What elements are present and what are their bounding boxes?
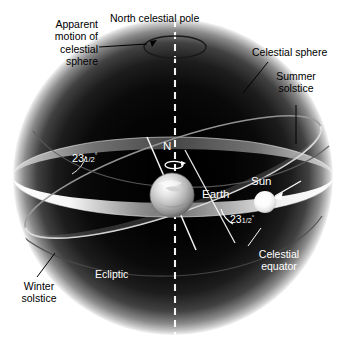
label-tilt-angle-right: 231/2° xyxy=(230,213,254,225)
label-sun: Sun xyxy=(251,175,271,187)
tilt-right-degree: ° xyxy=(252,213,254,220)
label-winter-solstice: Winter solstice xyxy=(8,280,70,305)
label-tilt-angle-left: 231/2° xyxy=(72,152,97,164)
label-apparent-motion: Apparent motion of celestial sphere xyxy=(20,18,98,68)
earth-globe xyxy=(150,173,194,217)
label-celestial-equator: Celestial equator xyxy=(240,248,318,273)
tilt-right-fraction: 1/2 xyxy=(242,216,252,225)
label-summer-solstice: Summer solstice xyxy=(262,70,330,95)
label-earth: Earth xyxy=(202,188,230,200)
tilt-left-fraction: 1/2 xyxy=(84,155,95,164)
tilt-right-value: 23 xyxy=(230,213,242,225)
tilt-left-value: 23 xyxy=(72,152,84,164)
tilt-left-degree: ° xyxy=(95,152,98,159)
label-celestial-sphere: Celestial sphere xyxy=(252,46,327,58)
label-north-celestial-pole: North celestial pole xyxy=(110,12,199,24)
sun-globe xyxy=(254,191,276,213)
celestial-sphere-figure: Apparent motion of celestial sphere Nort… xyxy=(0,0,347,348)
label-north-axis: N xyxy=(163,140,171,152)
label-ecliptic: Ecliptic xyxy=(95,268,128,280)
